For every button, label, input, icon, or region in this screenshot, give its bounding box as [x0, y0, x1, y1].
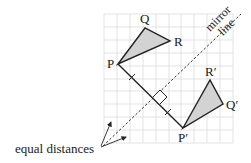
- arrow-to-upper-tick: [101, 122, 111, 146]
- arrow-to-lower-tick: [101, 137, 126, 147]
- label-r: R: [174, 34, 183, 49]
- label-q-prime: Q′: [226, 97, 238, 112]
- label-p-prime: P′: [178, 130, 188, 145]
- perpendicular-segment: [118, 64, 183, 128]
- reflection-diagram: P Q R P′ Q′ R′ mirror line equal distanc…: [0, 0, 251, 163]
- label-p: P: [107, 56, 114, 71]
- label-q: Q: [140, 11, 150, 26]
- triangle-pqr: [118, 28, 170, 64]
- label-r-prime: R′: [205, 64, 217, 79]
- right-angle-marker: [153, 90, 167, 104]
- equal-distances-label: equal distances: [15, 141, 94, 156]
